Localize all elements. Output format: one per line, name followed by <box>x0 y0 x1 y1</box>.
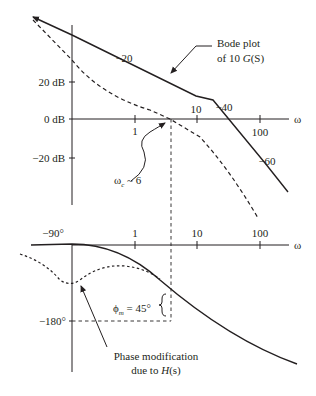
label-x-1: 1 <box>132 125 138 137</box>
slope-label-minus40: −40 <box>215 101 233 113</box>
slope-label-minus20: −20 <box>115 52 133 64</box>
label-omega-phase: ω <box>294 239 301 251</box>
label-x-100: 100 <box>252 126 269 138</box>
bode-annotation-line1: Bode plot <box>217 37 260 49</box>
phase-plot: −90° 1 10 100 ω −180° ϕm = 45° Phase mod… <box>20 227 301 377</box>
phase-modification-line2: due to H(s) <box>131 364 181 377</box>
label-omega-magnitude: ω <box>294 113 301 125</box>
label-x-10: 10 <box>191 103 203 115</box>
bode-diagram: 20 dB 0 dB −20 dB 1 10 100 ω −20 −40 −60… <box>0 0 316 396</box>
phase-modification-line1: Phase modification <box>114 350 199 362</box>
phase-label-x-10: 10 <box>192 227 204 239</box>
phase-label-minus90: −90° <box>42 227 64 239</box>
slope-label-minus60: −60 <box>258 155 276 167</box>
solid-phase-curve <box>31 244 297 364</box>
crossover-annotation: ωc ~ 6 <box>114 174 142 189</box>
phase-label-x-100: 100 <box>252 227 269 239</box>
phase-margin-label: ϕm = 45° <box>113 302 151 317</box>
bode-annotation-line2: of 10 G(S) <box>217 52 264 65</box>
bode-annotation-arrow <box>171 46 212 73</box>
phase-modification-arrow <box>81 286 107 347</box>
label-minus20db: −20 dB <box>32 152 65 164</box>
magnitude-plot: 20 dB 0 dB −20 dB 1 10 100 ω −20 −40 −60… <box>32 17 301 218</box>
phase-label-x-1: 1 <box>132 227 138 239</box>
phase-label-minus180: −180° <box>39 315 66 327</box>
phase-margin-brace <box>159 294 166 316</box>
label-0db: 0 dB <box>44 113 65 125</box>
dotted-phase-curve <box>20 254 160 284</box>
label-20db: 20 dB <box>38 76 65 88</box>
